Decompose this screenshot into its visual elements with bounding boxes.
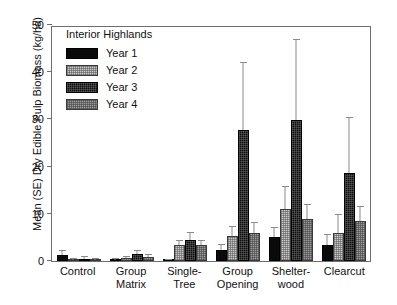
- y-axis-tick-label: 50: [32, 19, 44, 31]
- x-axis-label: Shelter-wood: [264, 265, 317, 305]
- bar: [249, 233, 260, 261]
- error-bar-cap: [145, 254, 152, 255]
- bar: [280, 209, 291, 261]
- error-bar-cap: [187, 232, 194, 233]
- legend-entry: Year 1: [66, 47, 196, 59]
- bar: [174, 245, 185, 261]
- error-bar: [148, 254, 149, 256]
- legend-entry: Year 4: [66, 98, 196, 110]
- error-bar-cap: [176, 240, 183, 241]
- error-bar: [95, 258, 96, 259]
- bar-slot: [291, 27, 302, 261]
- x-axis-labels: ControlGroupMatrixSingle-TreeGroupOpenin…: [51, 265, 371, 305]
- error-bar-cap: [229, 226, 236, 227]
- legend-swatch: [66, 99, 98, 110]
- bar: [227, 236, 238, 261]
- error-bar-cap: [70, 258, 77, 259]
- bar-slot: [355, 27, 366, 261]
- error-bar: [201, 240, 202, 245]
- error-bar: [243, 62, 244, 130]
- legend-entries: Year 1Year 2Year 3Year 4: [66, 47, 196, 110]
- x-axis-label-line: Opening: [211, 278, 264, 291]
- legend-label: Year 1: [106, 47, 137, 59]
- x-axis-label-line: Control: [51, 265, 104, 278]
- error-bar: [285, 186, 286, 210]
- bar-slot: [333, 27, 344, 261]
- bar: [322, 245, 333, 261]
- bar-group: [216, 27, 260, 261]
- x-axis-label: Clearcut: [318, 265, 371, 305]
- legend-swatch: [66, 48, 98, 59]
- error-bar-cap: [112, 258, 119, 259]
- error-bar: [62, 250, 63, 255]
- x-axis-label-line: Matrix: [104, 278, 157, 291]
- error-bar: [307, 204, 308, 219]
- error-bar-cap: [92, 258, 99, 259]
- error-bar: [296, 39, 297, 120]
- y-axis-tick-label: 10: [32, 208, 44, 220]
- legend-entry: Year 3: [66, 81, 196, 93]
- bar-slot: [249, 27, 260, 261]
- error-bar-cap: [357, 206, 364, 207]
- bar: [355, 221, 366, 261]
- y-axis-tick-label: 20: [32, 161, 44, 173]
- x-axis-label-line: Tree: [158, 278, 211, 291]
- error-bar-cap: [346, 117, 353, 118]
- y-axis-tick-label: 30: [32, 113, 44, 125]
- bar-slot: [280, 27, 291, 261]
- bar-slot: [322, 27, 333, 261]
- bar-slot: [269, 27, 280, 261]
- bar: [132, 254, 143, 261]
- legend-label: Year 3: [106, 81, 137, 93]
- error-bar-cap: [293, 39, 300, 40]
- legend-entry: Year 2: [66, 64, 196, 76]
- bar: [196, 245, 207, 261]
- bar: [333, 233, 344, 261]
- x-axis-label-line: Group: [104, 265, 157, 278]
- y-axis-tick-label: 0: [38, 255, 44, 267]
- error-bar-cap: [324, 234, 331, 235]
- bar-slot: [238, 27, 249, 261]
- x-axis-label-line: Single-: [158, 265, 211, 278]
- error-bar: [179, 240, 180, 245]
- bar: [57, 255, 68, 261]
- bar: [269, 237, 280, 261]
- bar: [302, 219, 313, 261]
- error-bar: [126, 256, 127, 258]
- error-bar: [338, 214, 339, 233]
- x-axis-label-line: Shelter-: [264, 265, 317, 278]
- error-bar: [73, 258, 74, 259]
- error-bar: [190, 232, 191, 240]
- error-bar-cap: [335, 214, 342, 215]
- bar-slot: [302, 27, 313, 261]
- error-bar-cap: [282, 186, 289, 187]
- bar-slot: [216, 27, 227, 261]
- error-bar: [137, 250, 138, 254]
- error-bar: [274, 227, 275, 238]
- figure: Mean (SE) Dry Edible Pulp Biomass (kg/ha…: [0, 0, 397, 305]
- error-bar-cap: [218, 244, 225, 245]
- error-bar-cap: [271, 227, 278, 228]
- error-bar: [327, 234, 328, 245]
- x-axis-label: GroupMatrix: [104, 265, 157, 305]
- error-bar-cap: [81, 256, 88, 257]
- bar: [291, 120, 302, 261]
- legend-label: Year 2: [106, 64, 137, 76]
- bar-group: [322, 27, 366, 261]
- error-bar-cap: [134, 250, 141, 251]
- y-axis-tick: [47, 24, 52, 25]
- error-bar: [115, 258, 116, 260]
- error-bar: [360, 206, 361, 221]
- legend-swatch: [66, 65, 98, 76]
- error-bar-cap: [304, 204, 311, 205]
- error-bar-cap: [123, 256, 130, 257]
- x-axis-label: Single-Tree: [158, 265, 211, 305]
- legend: Interior Highlands Year 1Year 2Year 3Yea…: [66, 28, 196, 115]
- error-bar: [221, 244, 222, 251]
- bar: [79, 259, 90, 261]
- bar-slot: [196, 27, 207, 261]
- x-axis-label-line: Clearcut: [318, 265, 371, 278]
- error-bar-cap: [251, 222, 258, 223]
- legend-label: Year 4: [106, 98, 137, 110]
- bar: [216, 250, 227, 261]
